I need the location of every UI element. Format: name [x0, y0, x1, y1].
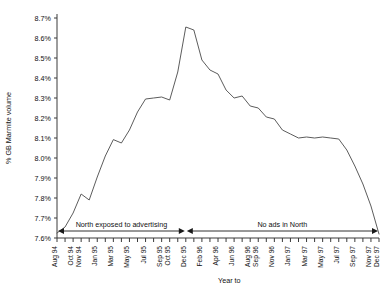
- x-tick-label: Aug 96: [244, 246, 252, 267]
- y-tick-label: 8.6%: [35, 34, 52, 43]
- x-tick-label: Sep 97: [349, 246, 357, 267]
- y-tick-label: 7.9%: [35, 174, 52, 183]
- x-tick-label: Dec 95: [180, 246, 187, 267]
- y-tick-label: 7.7%: [35, 214, 52, 223]
- x-tick-label: Sep 95: [156, 246, 164, 267]
- annotation-arrowhead-left-no-ads: [187, 228, 193, 234]
- chart-container: 7.6%7.7%7.8%7.9%8.0%8.1%8.2%8.3%8.4%8.5%…: [0, 0, 387, 297]
- x-tick-label: Oct 94: [67, 246, 74, 266]
- x-tick-label: Jan 97: [284, 246, 291, 266]
- y-tick-label: 8.1%: [35, 134, 52, 143]
- x-tick-label: Sep 96: [252, 246, 260, 267]
- annotation-label-north-exposed: North exposed to advertising: [76, 220, 168, 229]
- y-tick-label: 8.4%: [35, 74, 52, 83]
- x-tick-label: Jul 97: [333, 246, 340, 264]
- annotation-arrowhead-left-north-exposed: [58, 228, 64, 234]
- x-tick-label: Mar 97: [301, 246, 308, 267]
- x-tick-label: Feb 96: [196, 246, 203, 267]
- x-tick-label: Mar 95: [107, 246, 114, 267]
- data-series-line: [57, 27, 379, 234]
- x-tick-label: Dec 97: [373, 246, 380, 267]
- x-tick-label: Nov 97: [365, 246, 372, 267]
- x-tick-label: Apr 96: [212, 246, 220, 266]
- y-tick-label: 8.3%: [35, 94, 52, 103]
- y-tick-label: 8.2%: [35, 114, 52, 123]
- y-tick-label: 8.5%: [35, 54, 52, 63]
- line-chart: 7.6%7.7%7.8%7.9%8.0%8.1%8.2%8.3%8.4%8.5%…: [0, 0, 387, 297]
- x-tick-label: May 97: [317, 246, 325, 268]
- annotation-label-no-ads: No ads in North: [257, 220, 307, 229]
- y-tick-label: 7.6%: [35, 234, 52, 243]
- x-axis-title: Year to: [218, 276, 241, 285]
- y-tick-label: 8.0%: [35, 154, 52, 163]
- y-axis-title: % GB Marmite volume: [4, 92, 13, 164]
- x-tick-label: Aug 94: [51, 246, 59, 267]
- x-tick-label: Nov 94: [75, 246, 82, 267]
- y-tick-label: 8.7%: [35, 14, 52, 23]
- x-tick-label: Jun 96: [228, 246, 235, 266]
- x-tick-label: Jan 95: [91, 246, 98, 266]
- y-tick-label: 7.8%: [35, 194, 52, 203]
- x-tick-label: Jul 95: [140, 246, 147, 264]
- annotation-arrowhead-right-north-exposed: [179, 228, 185, 234]
- x-tick-label: May 95: [123, 246, 131, 268]
- x-tick-label: Oct 95: [164, 246, 171, 266]
- x-tick-label: Nov 96: [268, 246, 275, 267]
